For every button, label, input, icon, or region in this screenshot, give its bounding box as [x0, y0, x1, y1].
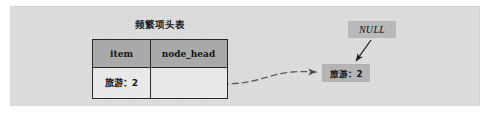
diagram-panel [10, 6, 480, 106]
page-title: 频繁项头表 [92, 17, 228, 31]
frequent-item-header-table: item node_head 旅游：2 [92, 39, 228, 99]
cell-item: 旅游：2 [93, 68, 151, 98]
table-row: 旅游：2 [93, 68, 227, 98]
table-header-row: item node_head [93, 40, 227, 68]
null-label-box: NULL [348, 21, 396, 38]
column-header-node-head: node_head [151, 40, 226, 67]
column-header-item: item [93, 40, 151, 67]
tree-node-box: 旅游：2 [322, 64, 370, 82]
diagram-screenshot: 频繁项头表 item node_head 旅游：2 旅游：2 NULL [0, 0, 493, 124]
cell-node-head [151, 68, 226, 98]
